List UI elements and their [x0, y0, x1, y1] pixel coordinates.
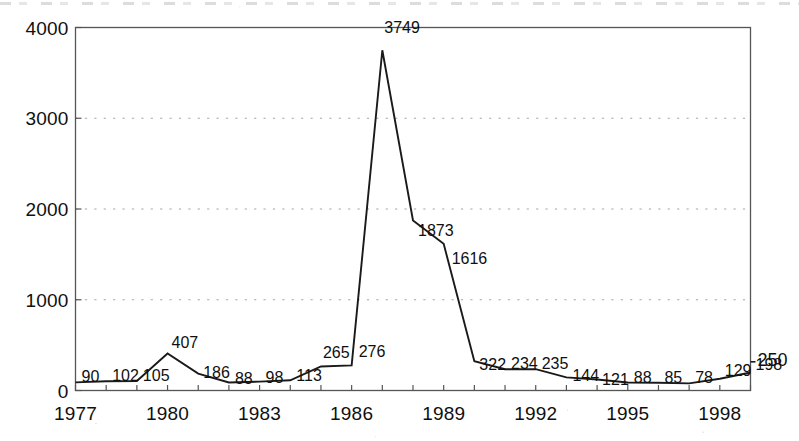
data-point-label: 90: [82, 369, 100, 385]
y-axis-tick-label: 1000: [25, 291, 68, 310]
line-chart: 01000200030004000 1977198019831986198919…: [0, 0, 799, 441]
data-point-label: 265: [323, 345, 350, 361]
data-point-label: 322: [479, 357, 506, 373]
gridlines: [76, 118, 751, 300]
x-axis-tick-label: 1983: [220, 404, 300, 423]
data-point-label: 1616: [452, 251, 488, 267]
data-point-label: 85: [664, 370, 682, 386]
data-point-label: 105: [143, 368, 170, 384]
y-axis-tick-label: 4000: [25, 19, 68, 38]
data-point-label: 407: [172, 335, 199, 351]
data-point-label: 113: [296, 368, 322, 384]
x-axis-tick-label: 1998: [680, 404, 760, 423]
data-point-label: 121: [602, 372, 629, 388]
data-point-label: 186: [203, 365, 230, 381]
y-axis-tick-label: 3000: [25, 109, 68, 128]
data-point-label: 144: [572, 368, 599, 384]
data-point-label: 78: [695, 370, 713, 386]
data-point-label: 3749: [384, 20, 420, 36]
y-axis-ticks: [76, 28, 82, 391]
x-axis-tick-label: 1995: [588, 404, 668, 423]
x-axis-tick-label: 1977: [36, 404, 116, 423]
x-axis-ticks: [76, 385, 751, 391]
data-point-label: 98: [266, 370, 284, 386]
data-point-label: 88: [235, 371, 253, 387]
data-point-label: 88: [634, 370, 652, 386]
data-point-label: 235: [542, 356, 569, 372]
trailing-data-label: 250: [758, 351, 788, 369]
data-point-label: 129: [725, 363, 752, 379]
x-axis-tick-label: 1992: [496, 404, 576, 423]
y-axis-tick-label: 0: [58, 382, 69, 401]
x-axis-tick-label: 1986: [312, 404, 392, 423]
data-point-label: 276: [359, 344, 386, 360]
x-axis-tick-label: 1980: [128, 404, 208, 423]
data-point-label: 1873: [418, 223, 454, 239]
x-axis-tick-label: 1989: [404, 404, 484, 423]
data-point-label: 102: [112, 368, 139, 384]
y-axis-tick-label: 2000: [25, 200, 68, 219]
data-point-label: 234: [511, 356, 538, 372]
